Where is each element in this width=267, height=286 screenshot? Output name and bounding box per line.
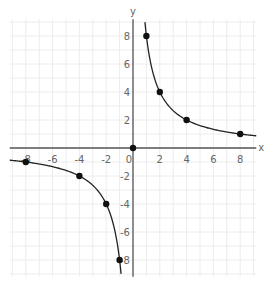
- x-tick-label: 4: [183, 154, 189, 165]
- origin-point: [130, 145, 136, 151]
- y-tick-label: 4: [124, 87, 130, 98]
- data-point: [23, 159, 29, 165]
- x-tick-label: -4: [74, 154, 84, 165]
- data-point: [183, 117, 189, 123]
- y-tick-label: 2: [124, 115, 130, 126]
- data-point: [157, 89, 163, 95]
- y-tick-label: -4: [120, 199, 130, 210]
- data-point: [76, 173, 82, 179]
- x-tick-label: 6: [210, 154, 216, 165]
- curve-branch-positive: [145, 22, 256, 136]
- data-point: [116, 257, 122, 263]
- y-tick-label: -2: [120, 171, 130, 182]
- y-tick-label: 6: [124, 59, 130, 70]
- data-point: [237, 131, 243, 137]
- x-tick-label: -6: [48, 154, 58, 165]
- y-tick-label: 8: [124, 31, 130, 42]
- data-point: [143, 33, 149, 39]
- curve-branch-negative: [10, 160, 121, 274]
- y-tick-label: -6: [120, 227, 130, 238]
- hyperbola-chart: x y -8-6-4-2024688642-2-4-6-8: [0, 0, 267, 286]
- x-tick-label: 8: [237, 154, 243, 165]
- x-tick-label: 0: [126, 154, 132, 165]
- axes: x y: [10, 6, 265, 277]
- y-axis-label: y: [130, 6, 136, 17]
- x-tick-label: 2: [157, 154, 163, 165]
- x-axis-label: x: [258, 142, 264, 153]
- x-tick-label: -2: [101, 154, 111, 165]
- data-point: [103, 201, 109, 207]
